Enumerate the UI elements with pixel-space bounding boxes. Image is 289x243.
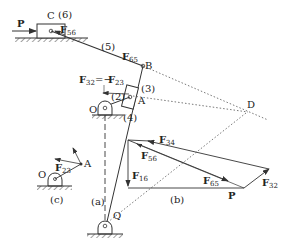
label-f16-sub: 16: [139, 175, 148, 183]
label-link3: (3): [141, 83, 155, 94]
label-p-poly: P: [228, 190, 236, 201]
pivot-o: [98, 101, 112, 115]
ground-hatch-o: [92, 115, 125, 119]
mechanism-force-diagram: P C (6) F 56 (5) F 65 B (4) (3) A (2) F: [0, 0, 289, 243]
label-b: B: [145, 60, 152, 71]
label-f32-poly-sub: 32: [269, 182, 278, 190]
label-a: A: [137, 95, 146, 106]
ground-hatch-q: [87, 234, 123, 238]
label-o: O: [89, 104, 97, 115]
label-f65-poly-sub: 65: [210, 180, 219, 188]
label-p: P: [17, 18, 25, 29]
dotted-line-b-d: [143, 66, 268, 120]
label-f23-eq-sub: 23: [115, 79, 124, 87]
force-radial-arrow-detail: [73, 148, 81, 164]
label-link2: (2): [111, 91, 125, 102]
label-q: Q: [113, 210, 121, 221]
label-f56-sub: 56: [67, 29, 76, 37]
ground-hatch-detail: [37, 186, 72, 190]
force-polygon-diagram: F 34 F 56 F 16 F 65 P F 32 (b): [128, 134, 278, 205]
label-f32-eq-sub: 32: [86, 79, 95, 87]
label-f34-sub: 34: [166, 139, 175, 147]
label-caption-c: (c): [50, 194, 64, 205]
label-o-detail: O: [38, 169, 46, 180]
label-link4: (4): [123, 112, 137, 123]
label-a-detail: A: [83, 158, 92, 169]
force-f34-tail: [128, 140, 150, 141]
label-caption-b: (b): [170, 194, 184, 205]
label-d: D: [247, 99, 255, 110]
label-link5: (5): [101, 41, 115, 52]
crank-detail-diagram: A O F 23 (c): [37, 148, 92, 205]
pivot-o-detail: [48, 173, 62, 186]
label-caption-a: (a): [91, 196, 105, 207]
label-f65-sub: 65: [129, 56, 138, 64]
label-f56-poly-sub: 56: [148, 155, 157, 163]
label-f23-detail-sub: 23: [62, 167, 71, 175]
label-c: C: [47, 10, 55, 21]
label-link6: (6): [58, 9, 72, 20]
